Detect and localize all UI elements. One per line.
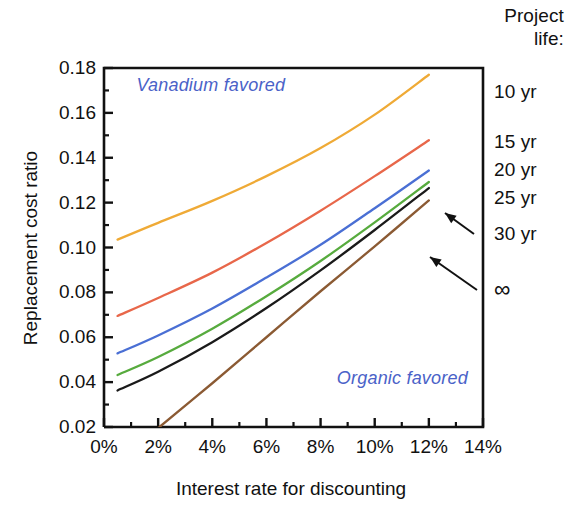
legend-item-15-yr: 15 yr — [494, 132, 537, 152]
chart-figure: Project life: 0.180.160.140.120.100.080.… — [0, 0, 582, 518]
series-line-30-yr — [118, 188, 429, 390]
callout-arrow-infinity — [430, 257, 477, 290]
legend-item-∞: ∞ — [494, 279, 511, 299]
x-axis-title: Interest rate for discounting — [0, 478, 582, 500]
series-line-10-yr — [118, 75, 429, 240]
x-axis-tick-label: 14% — [448, 437, 518, 456]
y-axis-tick-label: 0.18 — [32, 58, 96, 77]
legend-item-25-yr: 25 yr — [494, 188, 537, 208]
y-axis-tick-label: 0.02 — [32, 417, 96, 436]
legend-item-30-yr: 30 yr — [494, 224, 537, 244]
series-line-25-yr — [118, 182, 429, 375]
series-line-20-yr — [118, 171, 429, 354]
series-line-∞ — [160, 200, 429, 427]
annotation-vanadium-favored: Vanadium favored — [136, 75, 285, 96]
series-line-15-yr — [118, 140, 429, 316]
annotation-organic-favored: Organic favored — [337, 368, 468, 389]
legend-item-20-yr: 20 yr — [494, 160, 537, 180]
y-axis-title: Replacement cost ratio — [20, 83, 42, 413]
legend-item-10-yr: 10 yr — [494, 82, 537, 102]
callout-arrow-30-yr — [445, 213, 474, 234]
